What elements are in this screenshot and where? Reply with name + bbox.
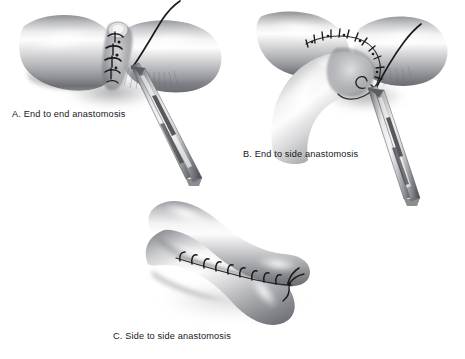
panel-a-label: A. End to end anastomosis	[12, 109, 126, 119]
panel-c-label: C. Side to side anastomosis	[113, 331, 231, 341]
panel-b-label: B. End to side anastomosis	[243, 149, 358, 159]
anastomosis-figure: A. End to end anastomosis B. End to side…	[0, 0, 465, 359]
illustration-canvas	[0, 0, 465, 359]
